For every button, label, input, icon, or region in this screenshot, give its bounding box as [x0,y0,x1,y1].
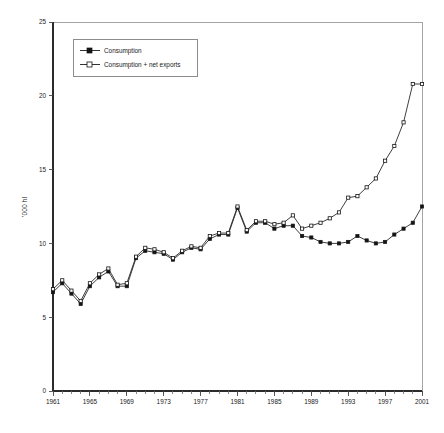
data-point-marker [227,231,230,234]
x-tick-label: 2001 [415,398,430,405]
chart-background [0,0,444,433]
data-point-marker [162,251,165,254]
data-point-marker [98,273,101,276]
data-point-marker [365,239,368,242]
data-point-marker [365,186,368,189]
y-tick-label: 20 [39,92,47,99]
data-point-marker [347,196,350,199]
data-point-marker [420,82,423,85]
data-point-marker [107,267,110,270]
data-point-marker [291,224,294,227]
data-point-marker [420,205,423,208]
data-point-marker [374,242,377,245]
data-point-marker [254,220,257,223]
data-point-marker [337,242,340,245]
data-point-marker [282,221,285,224]
legend-label-consumption: Consumption [104,47,142,55]
data-point-marker [356,195,359,198]
legend-marker-consumption [87,48,92,53]
data-point-marker [273,223,276,226]
data-point-marker [88,282,91,285]
y-tick-label: 0 [42,387,46,394]
data-point-marker [153,248,156,251]
data-point-marker [310,236,313,239]
data-point-marker [236,205,239,208]
data-point-marker [310,224,313,227]
data-point-marker [171,257,174,260]
data-point-marker [356,234,359,237]
data-point-marker [291,214,294,217]
x-tick-label: 1985 [267,398,282,405]
data-point-marker [70,289,73,292]
chart-legend: Consumption Consumption + net exports [73,39,197,76]
line-chart: 0510152025 19611965196919731977198119851… [0,0,444,433]
x-tick-label: 1961 [46,398,61,405]
legend-marker-net-exports [87,62,92,67]
x-tick-label: 1973 [157,398,172,405]
data-point-marker [51,288,54,291]
data-point-marker [116,283,119,286]
y-axis-title: '000 hl [21,197,28,217]
data-point-marker [79,299,82,302]
data-point-marker [300,234,303,237]
data-point-marker [411,221,414,224]
x-tick-label: 1969 [120,398,135,405]
data-point-marker [384,240,387,243]
y-tick-label: 10 [39,240,47,247]
data-point-marker [411,82,414,85]
data-point-marker [402,227,405,230]
data-point-marker [384,159,387,162]
data-point-marker [181,249,184,252]
data-point-marker [347,240,350,243]
data-point-marker [144,246,147,249]
data-point-marker [300,227,303,230]
data-point-marker [190,245,193,248]
data-point-marker [134,255,137,258]
data-point-marker [217,231,220,234]
data-point-marker [393,233,396,236]
data-point-marker [393,144,396,147]
data-point-marker [328,242,331,245]
data-point-marker [245,229,248,232]
legend-label-net-exports: Consumption + net exports [104,61,181,69]
data-point-marker [319,221,322,224]
data-point-marker [402,121,405,124]
y-tick-label: 25 [39,18,47,25]
x-tick-label: 1993 [341,398,356,405]
data-point-marker [264,220,267,223]
data-point-marker [199,246,202,249]
data-point-marker [337,211,340,214]
y-tick-label: 5 [42,314,46,321]
data-point-marker [61,279,64,282]
x-tick-label: 1981 [230,398,245,405]
legend-box [73,39,197,76]
x-tick-label: 1997 [378,398,393,405]
x-tick-label: 1989 [304,398,319,405]
data-point-marker [374,177,377,180]
y-tick-label: 15 [39,166,47,173]
data-point-marker [328,217,331,220]
data-point-marker [208,234,211,237]
x-tick-label: 1965 [83,398,98,405]
chart-container: 0510152025 19611965196919731977198119851… [0,0,444,433]
data-point-marker [125,282,128,285]
data-point-marker [319,240,322,243]
data-point-marker [273,227,276,230]
x-tick-label: 1977 [193,398,208,405]
